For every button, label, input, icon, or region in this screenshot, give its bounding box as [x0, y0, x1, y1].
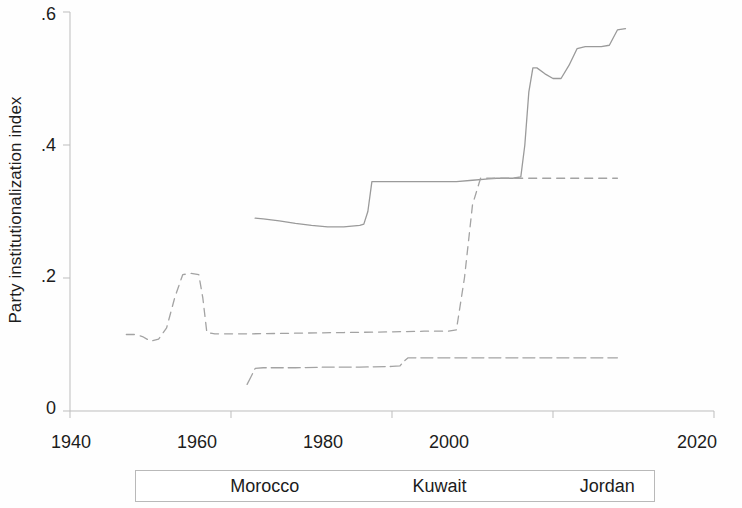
chart-container: Party institutionalization index .6 .4 .…: [0, 0, 742, 508]
series-line-morocco: [255, 29, 625, 227]
legend-label-morocco: Morocco: [230, 476, 299, 497]
legend-label-jordan: Jordan: [580, 476, 635, 497]
series-line-jordan: [247, 358, 617, 385]
legend-line-dashdot-icon: [505, 485, 571, 487]
legend-line-solid-icon: [155, 485, 221, 487]
plot-area: [0, 0, 742, 508]
legend-label-kuwait: Kuwait: [412, 476, 466, 497]
data-series-group: [126, 29, 625, 385]
legend-item-jordan[interactable]: Jordan: [505, 476, 635, 497]
series-line-kuwait: [126, 178, 617, 341]
legend-item-morocco[interactable]: Morocco: [155, 476, 299, 497]
axis-lines: [70, 12, 714, 411]
legend: Morocco Kuwait Jordan: [135, 470, 655, 502]
y-axis-ticks: [63, 12, 70, 411]
legend-item-kuwait[interactable]: Kuwait: [337, 476, 466, 497]
x-axis-ticks: [70, 411, 714, 418]
legend-line-dashed-icon: [337, 485, 403, 487]
